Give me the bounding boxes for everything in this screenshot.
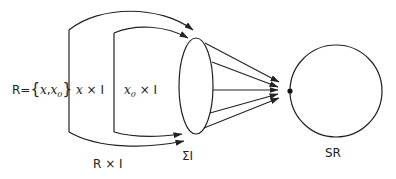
inner-bottom-arrow [114, 132, 182, 136]
x-symbol: x [76, 83, 83, 97]
inner-bracket [114, 27, 188, 136]
r-times-i-label: R × I [93, 158, 123, 170]
x-times-i-label: x × I [76, 84, 104, 96]
x0-times-i-rest: × I [136, 83, 157, 97]
r-prefix: R= [12, 83, 30, 97]
fan-arrow-2 [212, 62, 278, 87]
fan-arrow-1 [205, 43, 279, 82]
fan-arrows [204, 43, 279, 128]
x0-symbol: x [124, 83, 131, 97]
fan-arrow-5 [204, 98, 279, 128]
outer-top-arrow [69, 11, 193, 30]
fan-arrow-4 [210, 94, 278, 113]
brace-close: } [62, 80, 72, 98]
inner-top-arrow [114, 27, 188, 38]
sigma-i-label: ΣI [182, 150, 193, 162]
x-times-i-rest: × I [83, 83, 104, 97]
sr-label: SR [325, 147, 341, 159]
sr-circle [290, 45, 382, 137]
r-set-label: R={x,x0} [12, 82, 72, 99]
diagram: R={x,x0} x × I x0 × I R × I ΣI SR [0, 0, 396, 179]
sr-point-dot [287, 88, 292, 93]
r-set-x: x [40, 83, 47, 97]
x0-times-i-label: x0 × I [124, 84, 157, 99]
sigma-i-ellipse [179, 38, 213, 134]
outer-bottom-arrow [69, 132, 184, 146]
brace-open: { [30, 80, 40, 98]
